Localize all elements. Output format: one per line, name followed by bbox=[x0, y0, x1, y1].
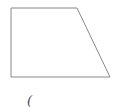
figure-caption: ( bbox=[27, 94, 32, 107]
trapezoid-shape bbox=[11, 8, 110, 77]
trapezoid-diagram bbox=[0, 0, 126, 107]
